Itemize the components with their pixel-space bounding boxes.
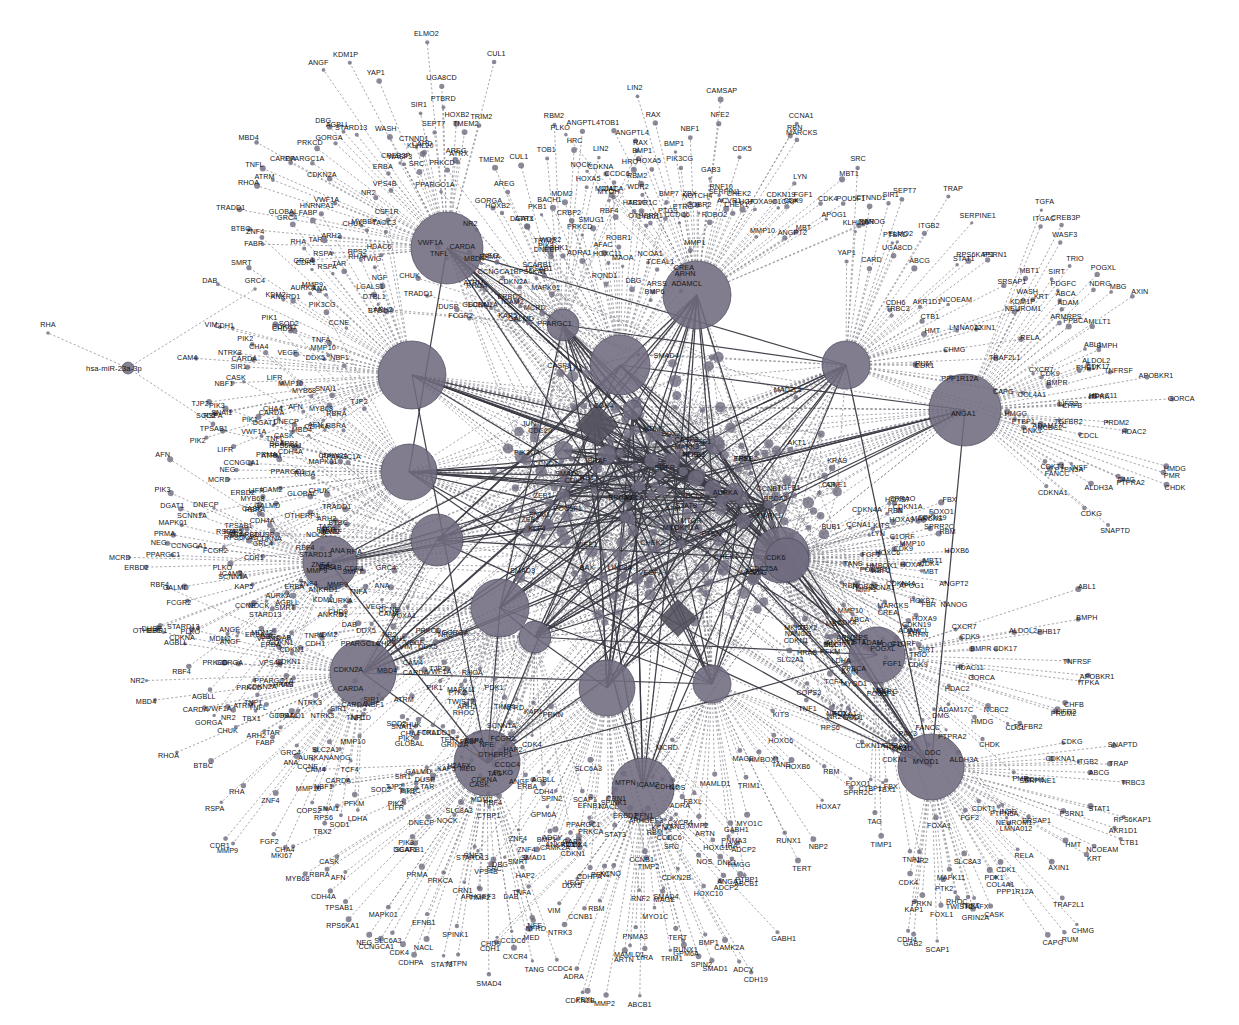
leaf-node[interactable]	[556, 526, 567, 537]
leaf-node[interactable]	[791, 617, 795, 621]
leaf-node[interactable]	[802, 616, 808, 622]
leaf-node[interactable]	[917, 849, 922, 854]
core-node[interactable]	[555, 441, 573, 459]
leaf-node[interactable]	[921, 718, 925, 722]
leaf-node[interactable]	[540, 213, 543, 216]
leaf-node[interactable]	[398, 161, 401, 164]
leaf-node[interactable]	[738, 587, 750, 599]
leaf-node[interactable]	[505, 190, 510, 195]
leaf-node[interactable]	[647, 490, 656, 499]
leaf-node[interactable]	[637, 888, 641, 892]
leaf-node[interactable]	[872, 810, 877, 815]
leaf-node[interactable]	[389, 188, 394, 193]
leaf-node[interactable]	[782, 831, 787, 836]
leaf-node[interactable]	[517, 828, 520, 831]
leaf-node[interactable]	[713, 352, 724, 363]
leaf-node[interactable]	[511, 945, 517, 951]
leaf-node[interactable]	[697, 211, 700, 214]
leaf-node[interactable]	[907, 871, 913, 877]
leaf-node[interactable]	[582, 369, 591, 378]
leaf-node[interactable]	[365, 228, 369, 232]
leaf-node[interactable]	[531, 701, 535, 705]
leaf-node[interactable]	[607, 436, 614, 443]
leaf-node[interactable]	[961, 851, 967, 857]
leaf-node[interactable]	[356, 808, 360, 812]
hub-node[interactable]	[471, 579, 529, 637]
leaf-node[interactable]	[597, 156, 601, 160]
core-node[interactable]	[623, 400, 643, 420]
leaf-node[interactable]	[390, 624, 396, 630]
leaf-node[interactable]	[675, 532, 679, 536]
leaf-node[interactable]	[988, 903, 993, 908]
leaf-node[interactable]	[424, 936, 430, 942]
leaf-node[interactable]	[903, 724, 906, 727]
leaf-node[interactable]	[419, 111, 423, 115]
leaf-node[interactable]	[568, 830, 573, 835]
leaf-node[interactable]	[1060, 307, 1065, 312]
leaf-node[interactable]	[442, 954, 446, 958]
leaf-node[interactable]	[725, 422, 735, 432]
leaf-node[interactable]	[625, 502, 632, 509]
leaf-node[interactable]	[886, 201, 890, 205]
leaf-node[interactable]	[919, 892, 925, 898]
leaf-node[interactable]	[972, 896, 976, 900]
leaf-node[interactable]	[761, 450, 768, 457]
leaf-node[interactable]	[1059, 223, 1064, 228]
leaf-node[interactable]	[441, 870, 446, 875]
leaf-node[interactable]	[744, 775, 749, 780]
leaf-node[interactable]	[810, 507, 817, 514]
leaf-node[interactable]	[640, 193, 644, 197]
leaf-node[interactable]	[581, 233, 584, 236]
leaf-node[interactable]	[647, 546, 655, 554]
leaf-node[interactable]	[432, 130, 436, 134]
leaf-node[interactable]	[649, 167, 654, 172]
leaf-node[interactable]	[540, 534, 545, 539]
leaf-node[interactable]	[492, 60, 497, 65]
leaf-node[interactable]	[792, 181, 796, 185]
leaf-node[interactable]	[639, 556, 645, 562]
leaf-node[interactable]	[310, 801, 314, 805]
leaf-node[interactable]	[787, 447, 793, 453]
leaf-node[interactable]	[679, 166, 684, 171]
leaf-node[interactable]	[417, 169, 423, 175]
core-node[interactable]	[688, 470, 704, 486]
leaf-node[interactable]	[642, 848, 648, 854]
leaf-node[interactable]	[545, 157, 549, 161]
leaf-node[interactable]	[844, 259, 848, 263]
leaf-node[interactable]	[737, 959, 741, 963]
leaf-node[interactable]	[701, 884, 706, 889]
leaf-node[interactable]	[829, 465, 835, 471]
leaf-node[interactable]	[456, 952, 460, 956]
leaf-node[interactable]	[908, 849, 913, 854]
leaf-node[interactable]	[562, 922, 568, 928]
leaf-node[interactable]	[477, 886, 482, 891]
leaf-node[interactable]	[817, 430, 824, 437]
leaf-node[interactable]	[510, 930, 513, 933]
leaf-node[interactable]	[587, 757, 593, 763]
leaf-node[interactable]	[581, 403, 587, 409]
leaf-node[interactable]	[384, 230, 388, 234]
leaf-node[interactable]	[631, 463, 639, 471]
leaf-node[interactable]	[805, 681, 810, 686]
leaf-node[interactable]	[781, 517, 789, 525]
leaf-node[interactable]	[1091, 287, 1096, 292]
leaf-node[interactable]	[442, 105, 446, 109]
leaf-node[interactable]	[636, 94, 640, 98]
leaf-node[interactable]	[231, 841, 235, 845]
leaf-node[interactable]	[764, 439, 773, 448]
leaf-node[interactable]	[753, 605, 762, 614]
leaf-node[interactable]	[696, 814, 701, 819]
leaf-node[interactable]	[620, 574, 627, 581]
leaf-node[interactable]	[622, 435, 626, 439]
leaf-node[interactable]	[591, 487, 597, 493]
leaf-node[interactable]	[963, 808, 968, 813]
leaf-node[interactable]	[970, 221, 973, 224]
leaf-node[interactable]	[674, 150, 678, 154]
leaf-node[interactable]	[557, 901, 561, 905]
leaf-node[interactable]	[795, 138, 800, 143]
leaf-node[interactable]	[593, 609, 604, 620]
leaf-node[interactable]	[906, 929, 910, 933]
leaf-node[interactable]	[439, 84, 444, 89]
leaf-node[interactable]	[734, 464, 742, 472]
leaf-node[interactable]	[827, 671, 833, 677]
